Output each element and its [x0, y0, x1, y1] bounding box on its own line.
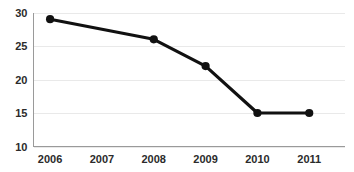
- x-axis-tick-labels: 200620072008200920102011: [38, 153, 321, 165]
- x-axis-tick-label: 2011: [297, 153, 321, 165]
- data-point-marker: [253, 109, 261, 117]
- y-axis-tick-label: 30: [15, 7, 27, 19]
- y-axis-tick-labels: 1015202530: [15, 7, 27, 153]
- series-markers-group: [46, 15, 313, 117]
- x-axis-tick-label: 2010: [245, 153, 269, 165]
- data-point-marker: [46, 15, 54, 23]
- y-axis-tick-label: 25: [15, 40, 27, 52]
- line-chart: 1015202530 200620072008200920102011: [0, 0, 354, 172]
- data-point-marker: [305, 109, 313, 117]
- y-axis-tick-label: 20: [15, 74, 27, 86]
- data-point-marker: [201, 62, 209, 70]
- y-axis-tick-label: 15: [15, 107, 27, 119]
- y-axis-tick-label: 10: [15, 141, 27, 153]
- x-axis-tick-label: 2006: [38, 153, 62, 165]
- x-axis-tick-label: 2007: [90, 153, 114, 165]
- series-line-path: [50, 19, 309, 113]
- chart-canvas: 1015202530 200620072008200920102011: [0, 0, 354, 172]
- x-axis-tick-label: 2009: [193, 153, 217, 165]
- gridlines-group: [34, 14, 345, 148]
- data-point-marker: [150, 35, 158, 43]
- x-axis-tick-label: 2008: [142, 153, 166, 165]
